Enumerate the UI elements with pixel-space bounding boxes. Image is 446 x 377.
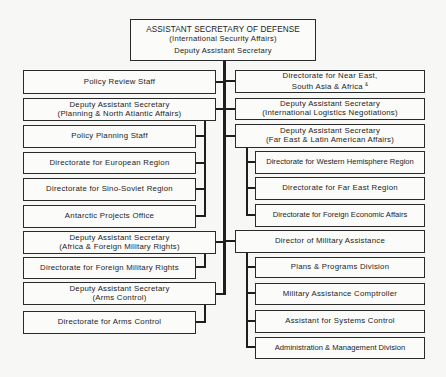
connector-line (215, 293, 225, 295)
connector-line (195, 215, 205, 217)
connector-line (215, 108, 224, 110)
near-east-directorate-box: Directorate for Near East, South Asia & … (235, 70, 425, 93)
european-region-box: Directorate for European Region (23, 152, 196, 174)
das-africa-fmr-box: Deputy Assistant Secretary (Africa & For… (23, 231, 216, 254)
sino-soviet-region-box: Directorate for Sino-Soviet Region (23, 178, 196, 201)
box-label-line2: (Africa & Foreign Military Rights) (59, 243, 180, 252)
connector-line (195, 188, 205, 190)
far-east-region-box: Directorate for Far East Region (255, 177, 425, 200)
connector-line (215, 81, 224, 83)
connector-line (246, 292, 255, 294)
arms-control-directorate-box: Directorate for Arms Control (23, 311, 196, 334)
asd-subtitle: (International Security Affairs) (169, 34, 276, 43)
connector-line (215, 241, 224, 243)
das-logistics-box: Deputy Assistant Secretary (Internationa… (235, 98, 425, 120)
sub-bracket-line (246, 147, 248, 216)
box-label: Policy Review Staff (84, 78, 155, 87)
foreign-economic-affairs-box: Directorate for Foreign Economic Affairs (255, 204, 425, 227)
box-label-line2: (Planning & North Atlantic Affairs) (58, 110, 182, 119)
box-label: Directorate for European Region (49, 159, 169, 168)
box-label-line2: (Far East & Latin American Affairs) (266, 136, 394, 145)
main-trunk-line (223, 60, 226, 295)
das-planning-nato-box: Deputy Assistant Secretary (Planning & N… (23, 98, 216, 121)
das-arms-control-box: Deputy Assistant Secretary (Arms Control… (23, 282, 216, 305)
box-label: Administration & Management Division (275, 344, 405, 353)
connector-line (195, 135, 205, 137)
policy-review-staff-box: Policy Review Staff (23, 70, 216, 94)
box-label-line2-wrap: South Asia & Africa& (292, 81, 368, 92)
footnote-mark: & (365, 82, 368, 87)
connector-line (246, 214, 255, 216)
western-hemisphere-box: Directorate for Western Hemisphere Regio… (255, 151, 425, 174)
box-label-line1: Directorate for Near East, (283, 72, 378, 81)
box-label: Plans & Programs Division (291, 263, 390, 272)
box-label: Policy Planning Staff (71, 132, 148, 141)
connector-line (224, 80, 235, 82)
connector-line (195, 266, 205, 268)
box-label: Directorate for Foreign Military Rights (40, 264, 179, 273)
box-label-line2: (International Logistics Negotiations) (262, 109, 398, 118)
connector-line (246, 346, 255, 348)
box-label: Assistant for Systems Control (285, 317, 395, 326)
asd-deputy: Deputy Assistant Secretary (174, 46, 272, 55)
connector-line (224, 135, 235, 137)
connector-line (224, 240, 235, 242)
plans-programs-box: Plans & Programs Division (255, 257, 425, 278)
connector-line (195, 321, 205, 323)
box-label: Director of Military Assistance (275, 237, 385, 246)
box-label-line2: (Arms Control) (92, 294, 146, 303)
box-label: Directorate for Foreign Economic Affairs (273, 211, 408, 220)
connector-line (246, 320, 255, 322)
box-label: Military Assistance Comptroller (283, 290, 397, 299)
connector-line (224, 108, 235, 110)
connector-line (246, 187, 255, 189)
box-label: Directorate for Far East Region (282, 184, 398, 193)
military-assistance-box: Director of Military Assistance (235, 230, 425, 253)
admin-management-box: Administration & Management Division (255, 337, 425, 359)
asd-isa-box: ASSISTANT SECRETARY OF DEFENSE (Internat… (130, 19, 316, 61)
box-label-line2: South Asia & Africa (292, 82, 363, 91)
antarctic-projects-box: Antarctic Projects Office (23, 205, 196, 228)
connector-line (195, 162, 205, 164)
das-far-east-latin-box: Deputy Assistant Secretary (Far East & L… (235, 124, 425, 148)
connector-line (246, 161, 255, 163)
ma-comptroller-box: Military Assistance Comptroller (255, 283, 425, 305)
box-label: Antarctic Projects Office (65, 212, 154, 221)
box-label: Directorate for Western Hemisphere Regio… (266, 158, 414, 167)
asd-title: ASSISTANT SECRETARY OF DEFENSE (146, 25, 300, 34)
connector-line (246, 266, 255, 268)
box-label: Directorate for Sino-Soviet Region (46, 185, 173, 194)
foreign-military-rights-box: Directorate for Foreign Military Rights (23, 257, 196, 279)
systems-control-box: Assistant for Systems Control (255, 310, 425, 333)
box-label: Directorate for Arms Control (58, 318, 162, 327)
policy-planning-staff-box: Policy Planning Staff (23, 125, 196, 148)
